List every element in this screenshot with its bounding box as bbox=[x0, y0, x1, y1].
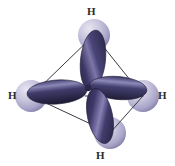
hydrogen-bottom-label: H bbox=[96, 150, 105, 161]
molecule-canvas bbox=[0, 0, 175, 166]
molecule-diagram: H H H H bbox=[0, 0, 175, 166]
edge-right-bottom bbox=[110, 96, 143, 133]
hydrogen-left-label: H bbox=[8, 90, 17, 101]
hydrogen-right-label: H bbox=[158, 90, 167, 101]
sp3-orbital-lobes bbox=[26, 29, 148, 146]
carbon-center-node bbox=[85, 85, 91, 91]
hydrogen-top-label: H bbox=[87, 6, 96, 17]
